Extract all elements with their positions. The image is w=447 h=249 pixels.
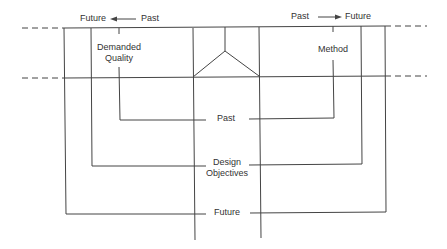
design-objectives-line1: Design: [202, 157, 252, 168]
center-left-vertical: [193, 28, 195, 240]
demanded-quality-label: Demanded Quality: [94, 42, 144, 64]
header-right-future: Future: [345, 11, 371, 22]
demanded-quality-line1: Demanded: [94, 42, 144, 53]
method-label: Method: [313, 44, 353, 55]
past-label: Past: [211, 113, 241, 124]
design-objectives-label: Design Objectives: [202, 157, 252, 179]
middle-line: [64, 76, 385, 78]
future-label: Future: [207, 207, 247, 218]
design-objectives-line2: Objectives: [202, 168, 252, 179]
header-left-future: Future: [80, 13, 106, 24]
past-right-bracket: [249, 60, 334, 119]
header-left-past: Past: [141, 13, 159, 24]
demanded-quality-line2: Quality: [94, 53, 144, 64]
right-arrowhead-icon: [335, 15, 342, 20]
left-arrowhead-icon: [110, 17, 117, 22]
header-right-past: Past: [291, 11, 309, 22]
triangle: [193, 51, 259, 77]
center-right-vertical: [259, 27, 261, 238]
